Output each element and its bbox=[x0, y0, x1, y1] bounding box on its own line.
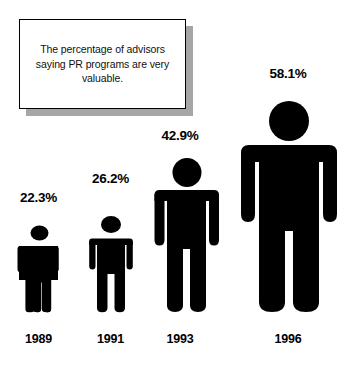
pictograph-chart: The percentage of advisors saying PR pro… bbox=[0, 0, 352, 375]
person-icon-1993 bbox=[140, 158, 220, 313]
value-label-1989: 22.3% bbox=[0, 190, 77, 205]
value-label-1991: 26.2% bbox=[72, 171, 149, 186]
figure-group-1993: 42.9% 1993 bbox=[140, 0, 220, 375]
person-icon-1996 bbox=[229, 101, 347, 313]
value-label-1996: 58.1% bbox=[229, 66, 347, 81]
figure-group-1991: 26.2% 1991 bbox=[72, 0, 149, 375]
category-label-1991: 1991 bbox=[72, 332, 149, 346]
category-label-1993: 1993 bbox=[140, 332, 220, 346]
category-label-1996: 1996 bbox=[229, 332, 347, 346]
figure-group-1996: 58.1% 1996 bbox=[229, 0, 347, 375]
person-icon-1989 bbox=[0, 224, 77, 313]
person-icon-1991 bbox=[72, 214, 149, 313]
category-label-1989: 1989 bbox=[0, 332, 77, 346]
value-label-1993: 42.9% bbox=[140, 128, 220, 143]
figure-group-1989: 22.3% 1989 bbox=[0, 0, 77, 375]
